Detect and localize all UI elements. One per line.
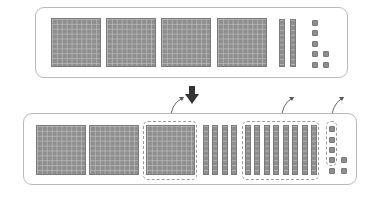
ten-rod [231,125,237,175]
one-cube [341,157,347,163]
ten-rod [245,125,251,175]
hundred-flat [89,125,139,175]
one-cube [329,168,335,174]
ten-rod [311,125,317,175]
ten-rod [283,125,289,175]
ten-rod [302,125,308,175]
ten-rod [222,125,228,175]
hundred-flat [146,125,195,175]
hundred-flat [36,125,86,175]
ten-rod [203,125,209,175]
ten-rod [254,125,260,175]
one-cube [329,137,335,143]
one-cube [329,157,335,163]
down-arrow-icon [185,86,199,104]
one-cube [341,168,347,174]
ten-rod [273,125,279,175]
ten-rod [264,125,270,175]
one-cube [329,126,335,132]
one-cube [329,147,335,153]
ten-rod [292,125,298,175]
ten-rod [212,125,218,175]
